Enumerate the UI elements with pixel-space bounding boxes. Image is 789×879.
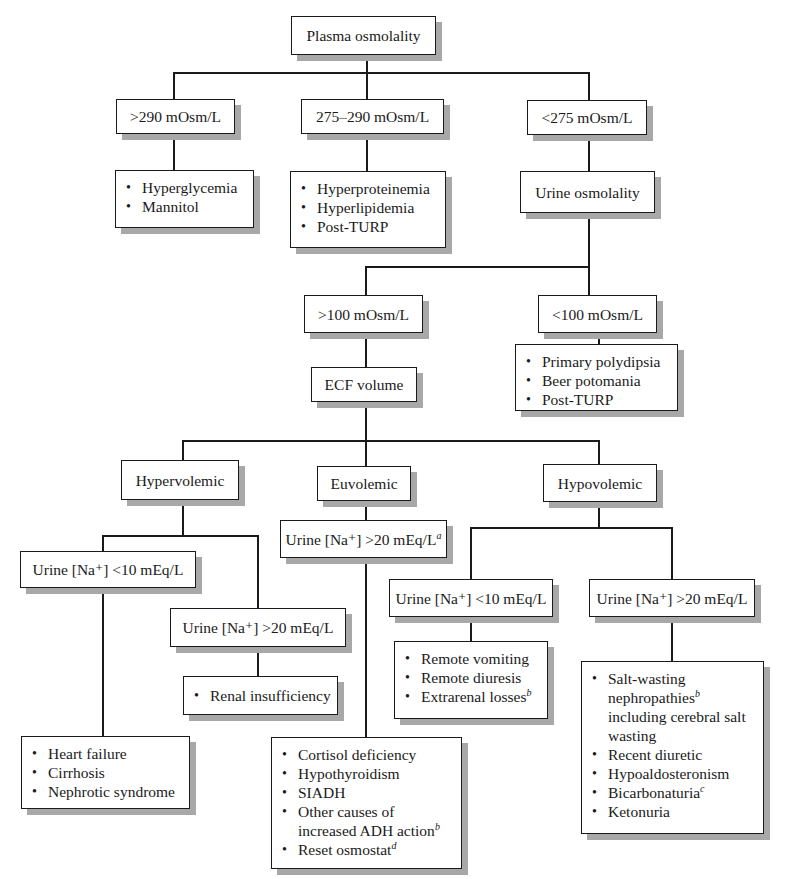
node-label: Urine [Na⁺] >20 mEq/L xyxy=(597,589,748,608)
node-gt-290: >290 mOsm/L xyxy=(116,99,235,134)
node-label: ECF volume xyxy=(325,375,404,394)
hyponatremia-flowchart: Plasma osmolality >290 mOsm/L 275–290 mO… xyxy=(0,0,789,879)
list-item: Nephrotic syndrome xyxy=(32,782,181,801)
node-lt-100-causes: Primary polydipsia Beer potomania Post-T… xyxy=(515,344,678,411)
footnote-marker: b xyxy=(695,688,700,699)
node-label: Urine osmolality xyxy=(535,183,640,202)
list-item: Extrarenal lossesb xyxy=(405,687,539,706)
connector xyxy=(588,72,590,100)
node-label: 275–290 mOsm/L xyxy=(316,107,429,126)
node-hypervolemic-urine-na-lt-10: Urine [Na⁺] <10 mEq/L xyxy=(20,551,196,588)
node-hypo-lt-10-causes: Remote vomiting Remote diuresis Extraren… xyxy=(394,641,548,719)
node-label: Euvolemic xyxy=(330,474,397,493)
node-euvolemic: Euvolemic xyxy=(317,466,411,501)
node-lt-275: <275 mOsm/L xyxy=(527,100,647,135)
list-item: Salt-wasting nephropathiesb including ce… xyxy=(592,669,755,745)
list-item: Cortisol deficiency xyxy=(282,745,453,764)
node-euvolemic-causes: Cortisol deficiency Hypothyroidism SIADH… xyxy=(271,737,462,869)
connector xyxy=(365,266,367,295)
connector xyxy=(102,535,259,537)
list-item: Beer potomania xyxy=(526,371,669,390)
connector xyxy=(365,501,367,520)
list-item: Hyperproteinemia xyxy=(301,179,437,198)
connector xyxy=(173,72,590,74)
footnote-marker: a xyxy=(436,530,441,541)
node-275-290: 275–290 mOsm/L xyxy=(301,99,444,134)
connector xyxy=(257,647,259,676)
list-item: Bicarbonaturiac xyxy=(592,783,755,802)
list-item: Renal insufficiency xyxy=(194,686,329,705)
list-item: Recent diuretic xyxy=(592,745,755,764)
list-item: Other causes ofincreased ADH actionb xyxy=(282,802,453,840)
footnote-marker: b xyxy=(435,821,440,832)
node-hypovolemic: Hypovolemic xyxy=(543,464,657,502)
node-hyperglycemia-causes: Hyperglycemia Mannitol xyxy=(115,170,254,228)
connector xyxy=(365,266,590,268)
list-item: Hypoaldosteronism xyxy=(592,764,755,783)
node-ecf-volume: ECF volume xyxy=(311,367,417,402)
connector xyxy=(182,440,600,442)
node-label: Hypervolemic xyxy=(136,471,225,490)
node-lt-100: <100 mOsm/L xyxy=(538,295,657,333)
connector xyxy=(470,527,472,579)
node-hypervolemic-causes: Heart failure Cirrhosis Nephrotic syndro… xyxy=(21,736,190,809)
list-item: Remote diuresis xyxy=(405,668,539,687)
connector xyxy=(182,500,184,537)
connector xyxy=(366,134,368,171)
list-item: Post-TURP xyxy=(526,390,669,409)
list-item: Hyperlipidemia xyxy=(301,198,437,217)
connector xyxy=(598,333,600,344)
list-item: Cirrhosis xyxy=(32,763,181,782)
node-hypervolemic: Hypervolemic xyxy=(121,460,239,500)
connector xyxy=(173,134,175,170)
connector xyxy=(182,440,184,460)
connector xyxy=(257,535,259,608)
node-hypervolemic-urine-na-gt-20: Urine [Na⁺] >20 mEq/L xyxy=(170,608,346,647)
list-item: Primary polydipsia xyxy=(526,352,669,371)
connector xyxy=(102,588,104,736)
connector xyxy=(588,213,590,295)
node-label: Urine [Na⁺] <10 mEq/L xyxy=(33,560,184,579)
list-item: Mannitol xyxy=(126,197,245,216)
connector xyxy=(470,617,472,641)
list-item: Hypothyroidism xyxy=(282,764,453,783)
list-item: Post-TURP xyxy=(301,217,437,236)
node-label: Urine [Na⁺] >20 mEq/La xyxy=(286,530,442,549)
list-item: Remote vomiting xyxy=(405,649,539,668)
footnote-marker: d xyxy=(391,840,396,851)
node-urine-osmolality: Urine osmolality xyxy=(520,171,655,213)
connector xyxy=(365,402,367,466)
node-renal-insufficiency: Renal insufficiency xyxy=(183,676,338,715)
node-euvolemic-urine-na-gt-20: Urine [Na⁺] >20 mEq/La xyxy=(280,520,447,558)
node-gt-100: >100 mOsm/L xyxy=(304,295,423,333)
connector xyxy=(365,333,367,367)
list-item: SIADH xyxy=(282,783,453,802)
connector xyxy=(102,535,104,551)
node-label: Hypovolemic xyxy=(558,474,642,493)
footnote-marker: b xyxy=(526,687,531,698)
list-item: Ketonuria xyxy=(592,802,755,821)
node-hyperproteinemia-causes: Hyperproteinemia Hyperlipidemia Post-TUR… xyxy=(290,171,446,248)
connector xyxy=(588,135,590,171)
list-item: Heart failure xyxy=(32,744,181,763)
connector xyxy=(366,72,368,99)
node-hypovolemic-urine-na-lt-10: Urine [Na⁺] <10 mEq/L xyxy=(389,579,553,617)
list-item: Reset osmostatd xyxy=(282,840,453,859)
node-label: Plasma osmolality xyxy=(306,26,420,45)
node-hypo-gt-20-causes: Salt-wasting nephropathiesb including ce… xyxy=(581,661,764,834)
connector xyxy=(598,440,600,464)
node-label: >100 mOsm/L xyxy=(318,305,409,324)
node-label: Urine [Na⁺] <10 mEq/L xyxy=(396,589,547,608)
footnote-marker: c xyxy=(700,783,704,794)
connector xyxy=(598,502,600,528)
connector xyxy=(671,617,673,661)
connector xyxy=(365,558,367,737)
connector xyxy=(671,527,673,579)
list-item: Hyperglycemia xyxy=(126,178,245,197)
node-label: >290 mOsm/L xyxy=(130,107,221,126)
node-label: Urine [Na⁺] >20 mEq/L xyxy=(183,618,334,637)
node-hypovolemic-urine-na-gt-20: Urine [Na⁺] >20 mEq/L xyxy=(589,579,755,617)
node-plasma-osmolality: Plasma osmolality xyxy=(291,16,436,55)
connector xyxy=(470,527,673,529)
node-label: <275 mOsm/L xyxy=(542,108,633,127)
